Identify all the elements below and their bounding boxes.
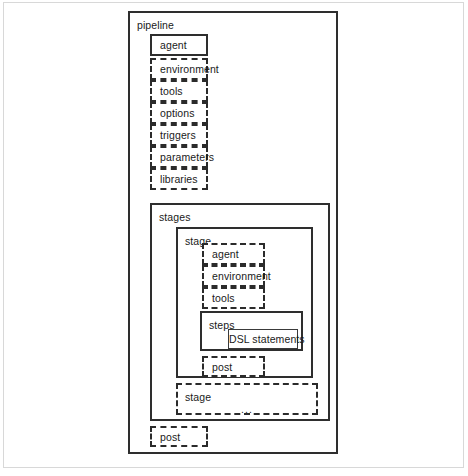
pipeline-environment-block: environment	[150, 58, 208, 80]
pipeline-options-label: options	[160, 108, 195, 119]
pipeline-tools-label: tools	[160, 86, 183, 97]
pipeline-post-label: post	[160, 431, 180, 442]
pipeline-parameters-label: parameters	[160, 152, 214, 163]
stage-repeat-ellipsis: ...	[178, 403, 316, 415]
stages-label: stages	[159, 212, 191, 223]
pipeline-triggers-label: triggers	[160, 130, 196, 141]
pipeline-agent-label: agent	[160, 40, 187, 51]
stage-post-label: post	[212, 361, 232, 372]
dsl-statements-block: DSL statements	[228, 329, 298, 349]
pipeline-triggers-block: triggers	[150, 124, 208, 146]
stage-tools-block: tools	[202, 287, 265, 309]
stage-post-block: post	[202, 356, 265, 377]
stage-agent-label: agent	[212, 249, 239, 260]
pipeline-label: pipeline	[137, 20, 174, 31]
pipeline-post-block: post	[150, 426, 208, 447]
pipeline-options-block: options	[150, 102, 208, 124]
pipeline-environment-label: environment	[160, 64, 219, 75]
stage-environment-block: environment	[202, 265, 265, 287]
pipeline-agent-block: agent	[150, 34, 208, 56]
pipeline-libraries-label: libraries	[160, 174, 198, 185]
stage-repeat-block: stage ...	[176, 383, 318, 415]
stage-environment-label: environment	[212, 271, 271, 282]
stage-agent-block: agent	[202, 243, 265, 265]
pipeline-libraries-block: libraries	[150, 168, 208, 190]
stage-tools-label: tools	[212, 293, 235, 304]
diagram-canvas: pipeline agent environment tools options…	[0, 0, 468, 476]
pipeline-tools-block: tools	[150, 80, 208, 102]
dsl-statements-label: DSL statements	[229, 334, 297, 345]
pipeline-parameters-block: parameters	[150, 146, 208, 168]
stage-repeat-label: stage	[185, 392, 211, 403]
